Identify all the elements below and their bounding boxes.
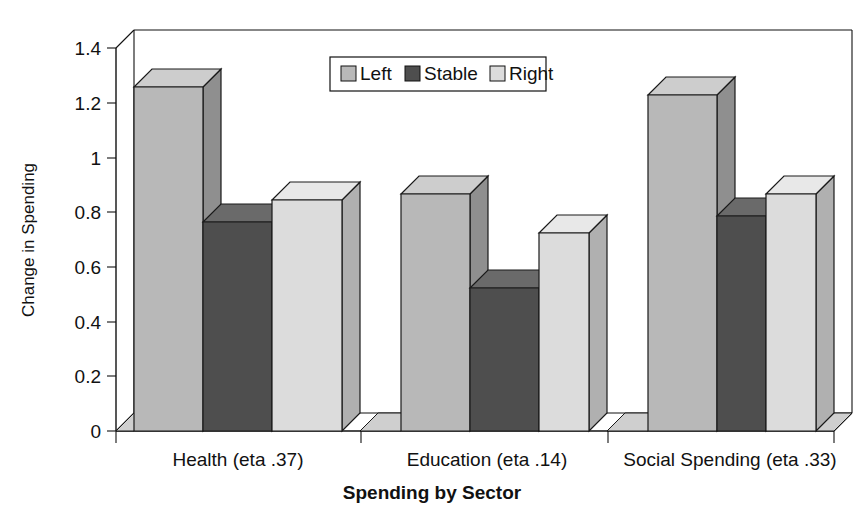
- chart-legend: Left Stable Right: [330, 57, 554, 91]
- chart-svg: 1.4 1.2 1 0.8 0.6 0.4: [0, 0, 865, 524]
- y-tick-label: 1.4: [75, 38, 102, 59]
- y-tick-label: 1: [90, 148, 101, 169]
- bar-social-right: [766, 176, 834, 431]
- bar-health-right: [272, 182, 360, 431]
- x-category-label-social-spending: Social Spending (eta .33): [623, 449, 836, 470]
- y-tick-label: 0.8: [75, 202, 101, 223]
- legend-swatch-icon: [490, 66, 505, 81]
- legend-label-left: Left: [360, 63, 392, 84]
- chart-figure: 1.4 1.2 1 0.8 0.6 0.4: [0, 0, 865, 524]
- bar-education-right: [539, 215, 607, 431]
- y-tick-label: 0.6: [75, 257, 101, 278]
- legend-entry-left: Left: [341, 63, 392, 84]
- y-tick-label: 1.2: [75, 93, 101, 114]
- y-tick-label: 0: [90, 421, 101, 442]
- legend-entry-stable: Stable: [405, 63, 478, 84]
- y-tick-label: 0.4: [75, 312, 102, 333]
- y-tick-label: 0.2: [75, 366, 101, 387]
- x-category-label-health: Health (eta .37): [173, 449, 304, 470]
- x-category-label-education: Education (eta .14): [407, 449, 568, 470]
- legend-swatch-icon: [341, 66, 356, 81]
- x-axis-title: Spending by Sector: [343, 482, 522, 503]
- legend-entry-right: Right: [490, 63, 554, 84]
- y-axis-title: Change in Spending: [19, 163, 38, 317]
- legend-label-right: Right: [509, 63, 554, 84]
- legend-swatch-icon: [405, 66, 420, 81]
- legend-label-stable: Stable: [424, 63, 478, 84]
